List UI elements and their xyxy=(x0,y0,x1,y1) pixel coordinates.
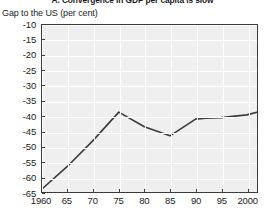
y-axis-tick-label: -65 xyxy=(0,189,36,198)
plot-area xyxy=(41,24,258,193)
chart-title: A. Convergence in GDP per capita is slow xyxy=(0,0,265,6)
gridline-vertical xyxy=(120,25,121,192)
chart-screenshot: A. Convergence in GDP per capita is slow… xyxy=(0,0,265,220)
gridline-horizontal xyxy=(42,179,257,180)
y-axis-tick-label: -25 xyxy=(0,66,36,75)
x-axis-tick-label: 70 xyxy=(88,196,98,206)
y-axis-tick-label: -55 xyxy=(0,158,36,167)
series-line-gap-to-us xyxy=(42,25,257,192)
gridline-horizontal xyxy=(42,194,257,195)
gridline-horizontal xyxy=(42,117,257,118)
x-axis-tick-label: 1960 xyxy=(31,196,51,206)
y-axis-tick-label: -40 xyxy=(0,112,36,121)
x-axis-tick-label: 75 xyxy=(113,196,123,206)
y-axis-tick-label: -50 xyxy=(0,142,36,151)
y-axis-tick-label: -20 xyxy=(0,50,36,59)
gridline-vertical xyxy=(68,25,69,192)
gridline-horizontal xyxy=(42,56,257,57)
gridline-vertical xyxy=(249,25,250,192)
x-axis-tick-label: 65 xyxy=(62,196,72,206)
gridline-vertical xyxy=(197,25,198,192)
y-axis-tick-label: -35 xyxy=(0,96,36,105)
gridline-horizontal xyxy=(42,25,257,26)
gridline-horizontal xyxy=(42,148,257,149)
y-axis-tick-label: -10 xyxy=(0,20,36,29)
gridline-horizontal xyxy=(42,133,257,134)
gridline-horizontal xyxy=(42,71,257,72)
x-axis-tick-label: 95 xyxy=(217,196,227,206)
gridline-vertical xyxy=(42,25,43,192)
x-axis-tick-label: 85 xyxy=(165,196,175,206)
gridline-horizontal xyxy=(42,40,257,41)
gridline-vertical xyxy=(145,25,146,192)
y-axis-tick-label: -45 xyxy=(0,127,36,136)
gridline-horizontal xyxy=(42,102,257,103)
x-axis-tick-label: 2000 xyxy=(237,196,257,206)
x-axis-tick-label: 80 xyxy=(139,196,149,206)
gridline-vertical xyxy=(223,25,224,192)
y-axis-tick-label: -30 xyxy=(0,81,36,90)
gridline-vertical xyxy=(171,25,172,192)
y-axis-tick-label: -15 xyxy=(0,35,36,44)
x-axis-tick-label: 90 xyxy=(191,196,201,206)
gridline-vertical xyxy=(94,25,95,192)
gridline-horizontal xyxy=(42,86,257,87)
y-axis-title: Gap to the US (per cent) xyxy=(2,8,98,18)
gridline-horizontal xyxy=(42,163,257,164)
y-axis-tick-label: -60 xyxy=(0,173,36,182)
